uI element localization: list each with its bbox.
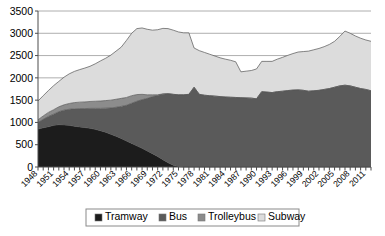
legend-swatch-bus <box>159 214 166 221</box>
legend-swatch-tramway <box>95 214 102 221</box>
y-tick-label-3500: 3500 <box>10 5 34 17</box>
legend-label-tramway: Tramway <box>105 210 149 222</box>
legend-label-trolleybus: Trolleybus <box>208 210 256 222</box>
legend-label-bus: Bus <box>169 210 187 222</box>
y-tick-label-1000: 1000 <box>10 116 34 128</box>
x-axis: 1948195119541957196019631966196919721975… <box>19 167 371 189</box>
y-tick-label-3000: 3000 <box>10 27 34 39</box>
plot-areas <box>38 28 371 167</box>
y-tick-label-2000: 2000 <box>10 72 34 84</box>
legend-label-subway: Subway <box>268 210 306 222</box>
y-tick-label-1500: 1500 <box>10 94 34 106</box>
chart-legend: TramwayBusTrolleybusSubway <box>86 209 306 226</box>
x-tick-label-2011: 2011 <box>347 168 367 188</box>
y-tick-label-500: 500 <box>15 138 33 150</box>
legend-swatch-subway <box>258 214 265 221</box>
chart-canvas: 0500100015002000250030003500 19481951195… <box>0 0 385 236</box>
y-tick-label-2500: 2500 <box>10 49 34 61</box>
stacked-area-chart: 0500100015002000250030003500 19481951195… <box>0 0 385 236</box>
legend-swatch-trolleybus <box>198 214 205 221</box>
y-axis: 0500100015002000250030003500 <box>10 5 38 173</box>
